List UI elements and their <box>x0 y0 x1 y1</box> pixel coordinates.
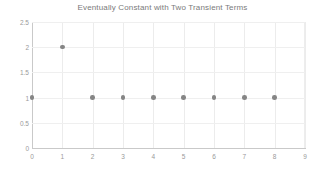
x-tick-label-7: 7 <box>234 153 254 160</box>
gridline-x-2 <box>93 22 94 148</box>
x-tick-label-6: 6 <box>204 153 224 160</box>
gridline-x-4 <box>153 22 154 148</box>
data-point <box>30 95 35 100</box>
x-axis-tick-labels: 0123456789 <box>0 153 325 167</box>
y-tick-label-0.5: 0.5 <box>3 119 29 126</box>
gridline-x-6 <box>214 22 215 148</box>
plot-frame <box>32 22 305 148</box>
gridline-y-2 <box>32 47 305 48</box>
data-point <box>242 95 247 100</box>
x-tick-label-2: 2 <box>83 153 103 160</box>
data-point <box>212 95 217 100</box>
gridline-x-3 <box>123 22 124 148</box>
x-tick-label-9: 9 <box>295 153 315 160</box>
gridline-y-1.5 <box>32 72 305 73</box>
gridline-x-9 <box>305 22 306 148</box>
y-tick-label-1.5: 1.5 <box>3 69 29 76</box>
scatter-chart: Eventually Constant with Two Transient T… <box>0 0 325 171</box>
x-tick-label-1: 1 <box>52 153 72 160</box>
data-point <box>121 95 126 100</box>
y-tick-label-1: 1 <box>3 94 29 101</box>
data-point <box>181 95 186 100</box>
y-tick-label-2.5: 2.5 <box>3 19 29 26</box>
gridline-y-2.5 <box>32 22 305 23</box>
x-tick-label-8: 8 <box>265 153 285 160</box>
gridline-y-1 <box>32 98 305 99</box>
x-tick-label-0: 0 <box>22 153 42 160</box>
x-tick-label-5: 5 <box>174 153 194 160</box>
y-tick-label-2: 2 <box>3 44 29 51</box>
gridline-x-5 <box>184 22 185 148</box>
gridline-x-7 <box>244 22 245 148</box>
x-axis-line <box>32 148 306 149</box>
plot-area <box>32 22 305 148</box>
gridline-y-0.5 <box>32 123 305 124</box>
x-tick-label-4: 4 <box>143 153 163 160</box>
data-point <box>90 95 95 100</box>
gridline-x-8 <box>275 22 276 148</box>
x-tick-label-3: 3 <box>113 153 133 160</box>
gridline-x-1 <box>62 22 63 148</box>
chart-title: Eventually Constant with Two Transient T… <box>0 3 325 12</box>
y-axis-tick-labels: 00.511.522.5 <box>0 0 29 171</box>
data-point <box>151 95 156 100</box>
y-tick-label-0: 0 <box>3 145 29 152</box>
data-point <box>272 95 277 100</box>
